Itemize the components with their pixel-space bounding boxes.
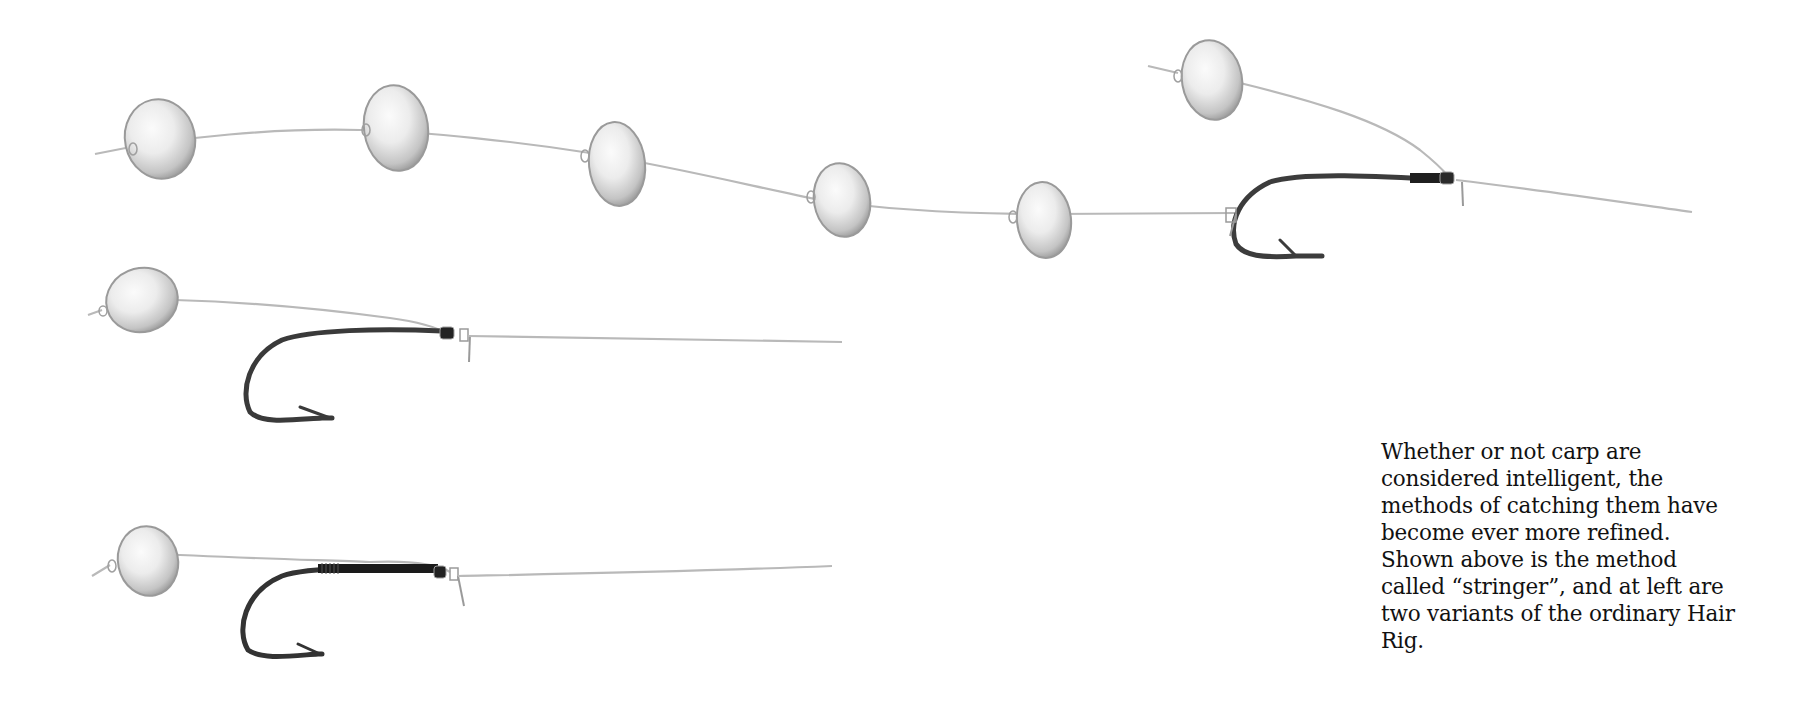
stringer-rig	[95, 35, 1692, 260]
hair-rig-2	[92, 521, 832, 657]
caption-line: Whether or not carp are	[1381, 438, 1741, 465]
caption-line: two variants of the ordinary Hair	[1381, 600, 1741, 627]
hook-icon	[243, 563, 464, 657]
boilie-icon	[117, 93, 202, 186]
boilie-icon	[99, 260, 185, 340]
leader-line	[1456, 180, 1692, 212]
boilie-icon	[108, 521, 185, 602]
hook-icon	[246, 327, 470, 420]
caption-line: become ever more refined.	[1381, 519, 1741, 546]
caption-line: called “stringer”, and at left are	[1381, 573, 1741, 600]
leader-line	[458, 566, 832, 576]
caption-line: methods of catching them have	[1381, 492, 1741, 519]
caption-line: considered intelligent, the	[1381, 465, 1741, 492]
boilie-icon	[807, 159, 876, 242]
leader-line	[468, 336, 842, 342]
hook-icon	[1226, 172, 1463, 257]
boilie-icon	[581, 119, 649, 208]
boilie-icon	[1009, 179, 1075, 260]
hair-rig-1	[88, 260, 842, 421]
illustration-caption: Whether or not carp are considered intel…	[1381, 438, 1741, 654]
boilie-icon	[1174, 35, 1248, 124]
caption-line: Rig.	[1381, 627, 1741, 654]
boilie-icon	[358, 81, 433, 175]
caption-line: Shown above is the method	[1381, 546, 1741, 573]
